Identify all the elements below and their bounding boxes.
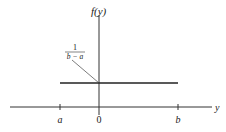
y-axis-label: f(y) [91, 5, 107, 18]
tick-label-a: a [58, 114, 63, 125]
tick-label-b: b [176, 114, 181, 125]
annotation-leader-line [72, 60, 99, 83]
tick-label-0: 0 [97, 114, 102, 125]
x-axis-label: y [214, 102, 220, 113]
annotation-numerator: 1 [73, 43, 77, 52]
uniform-density-chart: 1 b − a f(y) y a 0 b [0, 0, 226, 132]
annotation-denominator: b − a [67, 52, 84, 61]
